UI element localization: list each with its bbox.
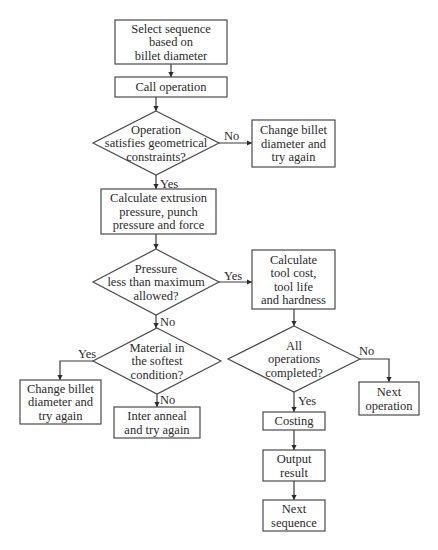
edge-label-geom-yes: Yes — [160, 177, 178, 191]
node-text-line: Material in — [129, 341, 185, 355]
arrowhead — [291, 495, 296, 500]
node-text-line: Next — [282, 502, 307, 516]
node-text-line: operations — [268, 352, 320, 366]
flowchart: Select sequencebased onbillet diameterCa… — [0, 0, 438, 550]
arrowhead — [291, 321, 296, 326]
connector-pressure-calc-to-check — [153, 234, 158, 249]
node-text-line: allowed? — [133, 289, 179, 303]
connector-geom-yes — [153, 175, 158, 189]
node-text-line: Costing — [275, 414, 315, 428]
node-all-ops-check: Alloperationscompleted? — [228, 326, 360, 392]
connector-call-to-geom — [153, 97, 158, 111]
node-text-line: constraints? — [126, 150, 186, 164]
node-inter-anneal: Inter annealand try again — [114, 407, 200, 438]
arrowhead — [168, 72, 173, 77]
arrowhead — [247, 140, 252, 145]
edge-label-geom-no: No — [224, 129, 239, 143]
node-pressure-check: Pressureless than maximumallowed? — [93, 249, 219, 315]
node-select-sequence: Select sequencebased onbillet diameter — [115, 20, 227, 64]
node-text-line: sequence — [271, 516, 317, 530]
edge-label-pressure-yes: Yes — [224, 269, 242, 283]
node-next-sequence: Nextsequence — [263, 500, 325, 531]
node-text-line: and try again — [124, 423, 190, 437]
edge-label-material-yes: Yes — [78, 347, 96, 361]
node-text-line: Calculate — [270, 253, 318, 267]
node-text-line: tool cost, — [271, 266, 317, 280]
node-text-line: try again — [271, 150, 316, 164]
node-text-line: Inter anneal — [127, 409, 187, 423]
edge-label-allops-no: No — [359, 344, 374, 358]
arrowhead — [153, 106, 158, 111]
node-text-line: Select sequence — [131, 22, 211, 36]
arrowhead — [247, 279, 252, 284]
node-text-line: less than maximum — [107, 275, 204, 289]
connector-material-yes — [57, 361, 93, 380]
node-text-line: based on — [149, 35, 194, 49]
connector-tool-to-allops — [291, 309, 296, 326]
node-text-line: the softest — [131, 354, 183, 368]
node-text-line: and hardness — [261, 293, 326, 307]
node-change-billet-2: Change billetdiameter andtry again — [20, 380, 101, 424]
node-text-line: result — [280, 466, 308, 480]
connector-allops-yes — [291, 392, 296, 412]
node-text-line: condition? — [131, 368, 184, 382]
node-text-line: Operation — [131, 123, 182, 137]
node-text-line: Next — [377, 385, 402, 399]
arrowhead — [153, 323, 158, 328]
node-text-line: Change billet — [27, 382, 95, 396]
connector-output-to-next — [291, 481, 296, 500]
arrowhead — [291, 407, 296, 412]
node-text-line: diameter and — [261, 137, 327, 151]
edge-label-allops-yes: Yes — [298, 394, 316, 408]
arrowhead — [153, 244, 158, 249]
node-costing: Costing — [263, 412, 325, 430]
node-text-line: tool life — [274, 280, 314, 294]
node-text-line: completed? — [265, 366, 323, 380]
edge-label-material-no: No — [160, 393, 175, 407]
node-text-line: diameter and — [28, 395, 94, 409]
connector-select-to-call — [168, 64, 173, 77]
node-calc-tool: Calculatetool cost,tool lifeand hardness — [252, 250, 335, 309]
edge-label-pressure-no: No — [160, 315, 175, 329]
node-text-line: All — [286, 339, 303, 353]
arrowhead — [154, 402, 159, 407]
node-text-line: Pressure — [135, 262, 178, 276]
node-text-line: Call operation — [135, 80, 207, 94]
node-calc-pressure: Calculate extrusionpressure, punchpressu… — [101, 189, 216, 234]
connector-material-no — [154, 394, 159, 407]
node-text-line: Calculate extrusion — [110, 191, 208, 205]
arrowhead — [153, 184, 158, 189]
node-text-line: Change billet — [260, 123, 328, 137]
arrowhead — [386, 377, 391, 382]
node-text-line: operation — [365, 399, 413, 413]
node-output-result: Outputresult — [263, 450, 325, 481]
arrowhead — [291, 445, 296, 450]
node-text-line: pressure and force — [113, 218, 205, 232]
node-geom-check: Operationsatisfies geometricalconstraint… — [93, 111, 219, 175]
node-call-operation: Call operation — [115, 77, 227, 97]
connector-allops-no — [360, 359, 392, 382]
node-change-billet-1: Change billetdiameter andtry again — [252, 120, 335, 167]
node-text-line: Output — [277, 452, 312, 466]
node-text-line: try again — [38, 409, 83, 423]
node-material-check: Material inthe softestcondition? — [93, 328, 221, 394]
arrowhead — [57, 375, 62, 380]
connector-costing-to-output — [291, 430, 296, 450]
node-next-operation: Nextoperation — [359, 382, 419, 415]
node-text-line: billet diameter — [135, 49, 208, 63]
node-text-line: pressure, punch — [119, 205, 198, 219]
node-text-line: satisfies geometrical — [105, 136, 208, 150]
connector-pressure-no — [153, 315, 158, 328]
